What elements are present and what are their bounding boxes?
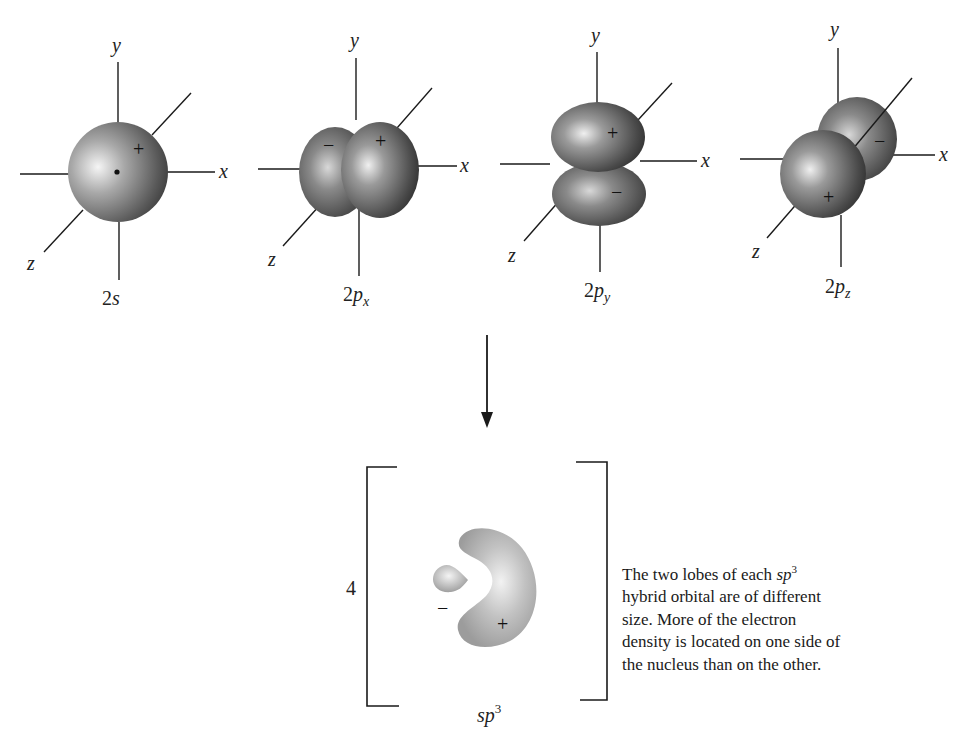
phase-sign-minus: −	[323, 134, 334, 156]
hybridization-arrow	[481, 335, 493, 428]
right-bracket	[576, 462, 607, 700]
y-axis-label: y	[110, 34, 121, 57]
y-axis-label: y	[828, 18, 839, 41]
x-axis-label: x	[938, 143, 948, 165]
caption-term: sp	[776, 565, 791, 584]
x-axis-label: x	[700, 149, 710, 171]
phase-sign-plus: +	[823, 186, 834, 208]
z-axis-label: z	[507, 244, 516, 266]
y-axis-label: y	[589, 24, 600, 47]
orbital-label-2pz: 2pz	[825, 275, 851, 301]
orbital-label-2py: 2py	[584, 279, 611, 305]
multiplier-label: 4	[346, 577, 356, 599]
small-lobe	[433, 565, 468, 592]
z-axis-back	[638, 83, 672, 120]
explanation-caption: The two lobes of each sp3 hybrid orbital…	[622, 558, 842, 676]
orbital-label-2px: 2px	[343, 283, 370, 309]
z-axis-back	[152, 93, 191, 135]
arrow-head-icon	[481, 412, 493, 428]
y-axis-label: y	[348, 29, 359, 52]
orbital-label-2s: 2s	[102, 287, 120, 309]
sp3-hybrid-orbital: 4 − + sp3	[346, 462, 607, 727]
z-axis	[524, 200, 560, 241]
phase-sign-minus: −	[611, 181, 622, 203]
z-axis	[44, 210, 83, 252]
z-axis-back	[397, 88, 432, 128]
orbital-2pz: − + y x z 2pz	[740, 18, 948, 301]
phase-sign-plus: +	[133, 138, 144, 160]
phase-sign-minus: −	[874, 130, 885, 152]
nucleus-dot	[114, 169, 119, 174]
z-axis	[283, 205, 320, 246]
phase-sign-minus: −	[437, 597, 448, 619]
phase-sign-plus: +	[497, 613, 508, 635]
p-lobe-positive	[551, 102, 645, 172]
orbital-2py: + − y x z 2py	[500, 24, 710, 305]
orbital-2px: − + y x z 2px	[258, 29, 469, 309]
z-axis-label: z	[751, 240, 760, 262]
z-axis-label: z	[267, 248, 276, 270]
phase-sign-plus: +	[607, 122, 618, 144]
x-axis-label: x	[459, 154, 469, 176]
orbital-2s: + y x z 2s	[20, 34, 228, 309]
x-axis-label: x	[218, 160, 228, 182]
hybrid-label-sp3: sp3	[477, 701, 501, 727]
left-bracket	[367, 467, 399, 706]
phase-sign-plus: +	[375, 130, 386, 152]
z-axis-label: z	[26, 252, 35, 274]
